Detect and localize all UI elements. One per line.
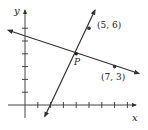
- y-axis-label: y: [13, 5, 20, 16]
- x-axis-label: x: [132, 112, 138, 123]
- label-point-p: P: [73, 57, 81, 67]
- chart-svg: y x (5, 6) (7, 3) P: [0, 0, 148, 130]
- coordinate-figure: y x (5, 6) (7, 3) P: [0, 0, 148, 130]
- point-7-3: [113, 65, 117, 69]
- steep-line: [45, 10, 95, 117]
- point-p: [74, 52, 78, 56]
- label-point-7-3: (7, 3): [101, 72, 125, 82]
- label-point-5-6: (5, 6): [97, 20, 121, 30]
- point-5-6: [87, 26, 91, 30]
